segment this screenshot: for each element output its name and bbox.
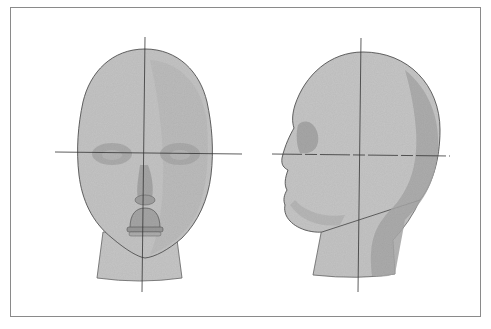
head-illustration bbox=[0, 0, 491, 329]
profile-view-head bbox=[282, 52, 440, 277]
front-view-head bbox=[78, 49, 213, 281]
